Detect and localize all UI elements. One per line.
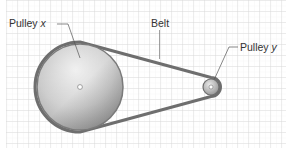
pulley-x-label-variable: x <box>41 17 46 29</box>
pulley-x-label: Pulley x <box>9 17 46 29</box>
belt-label: Belt <box>151 17 169 29</box>
pulley-x <box>37 44 123 130</box>
pulley-y-axle <box>209 85 213 89</box>
pulley-y-label-variable: y <box>272 41 277 53</box>
pulley-y-label: Pulley y <box>240 41 277 53</box>
pulley-y-label-text: Pulley <box>240 41 272 53</box>
pulley-belt-diagram: Pulley x Belt Pulley y <box>0 0 292 158</box>
pulley-x-label-text: Pulley <box>9 17 41 29</box>
belt-label-text: Belt <box>151 17 169 29</box>
pulley-y <box>203 79 219 95</box>
pulley-x-axle <box>78 85 83 90</box>
